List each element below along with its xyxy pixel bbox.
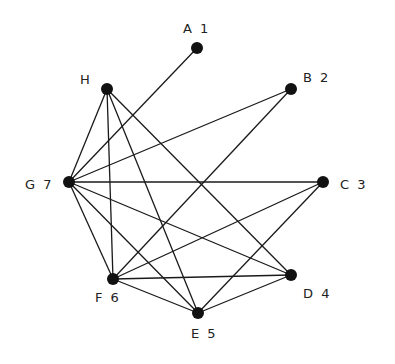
node-label-b: B 2 <box>303 70 330 85</box>
node-c <box>317 176 329 188</box>
edge-h-f <box>107 89 113 279</box>
graph-diagram: A 1B 2C 3D 4E 5F 6G 7H <box>0 0 395 364</box>
node-f <box>107 273 119 285</box>
node-label-f: F 6 <box>95 290 121 305</box>
edge-e-d <box>198 275 291 313</box>
edge-f-c <box>113 182 323 279</box>
node-g <box>63 176 75 188</box>
node-d <box>285 269 297 281</box>
node-e <box>192 307 204 319</box>
node-label-e: E 5 <box>191 326 218 341</box>
edge-f-b <box>113 89 291 279</box>
node-label-c: C 3 <box>340 177 367 192</box>
node-label-g: G 7 <box>25 177 53 192</box>
edge-f-e <box>113 279 198 313</box>
edge-g-e <box>69 182 198 313</box>
node-label-a: A 1 <box>183 21 210 36</box>
edge-f-d <box>113 275 291 279</box>
node-label-d: D 4 <box>303 286 331 301</box>
labels-layer: A 1B 2C 3D 4E 5F 6G 7H <box>25 21 367 341</box>
edge-g-f <box>69 182 113 279</box>
edge-g-d <box>69 182 291 275</box>
node-a <box>191 42 203 54</box>
node-h <box>101 83 113 95</box>
edge-g-b <box>69 89 291 182</box>
node-label-h: H <box>80 72 92 87</box>
node-b <box>285 83 297 95</box>
